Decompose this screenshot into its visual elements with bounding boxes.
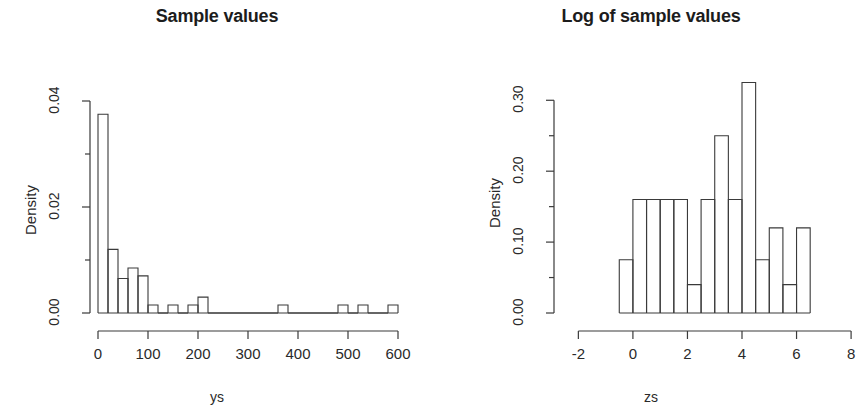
x-tick-label: 300 [226,345,270,362]
x-tick-label: -2 [556,345,600,362]
plot-panel-log-sample-values: Log of sample values Density zs 0.000.10… [434,0,868,413]
x-tick-label: 8 [829,345,868,362]
histogram-bar [198,297,208,313]
y-axis-left [82,101,90,313]
x-axis-right [578,331,851,339]
histogram-bar [687,285,701,313]
histogram-bar [358,305,368,313]
y-tick-label: 0.04 [46,78,62,122]
x-tick-label: 500 [326,345,370,362]
histogram-bar [715,136,729,313]
x-tick-label: 100 [126,345,170,362]
histogram-bar [701,200,715,313]
histogram-bar [188,305,198,313]
histogram-bar [769,228,783,313]
x-axis-left [98,331,398,339]
x-tick-label: 200 [176,345,220,362]
histogram-bar [108,249,118,313]
histogram-bar [168,305,178,313]
histogram-bar [647,200,661,313]
x-tick-label: 600 [376,345,420,362]
x-tick-label: 0 [611,345,655,362]
y-tick-label: 0.20 [510,148,526,192]
y-tick-label: 0.30 [510,77,526,121]
histogram-bars-left [98,114,398,313]
histogram-bar [98,114,108,313]
histogram-bar [138,276,148,313]
y-tick-label: 0.02 [46,184,62,228]
y-axis-right [546,100,554,313]
x-tick-label: 400 [276,345,320,362]
y-tick-label: 0.00 [510,290,526,334]
histogram-bar [128,268,138,313]
histogram-bar [674,200,688,313]
histogram-bar [619,260,633,313]
histogram-bar [118,279,128,313]
histogram-bar [756,260,770,313]
histogram-bar [633,200,647,313]
histogram-bar [338,305,348,313]
x-tick-label: 6 [775,345,819,362]
histogram-bars-right [619,83,810,313]
x-tick-label: 4 [720,345,764,362]
y-tick-label: 0.00 [46,290,62,334]
histogram-bar [742,83,756,313]
y-tick-label: 0.10 [510,219,526,263]
histogram-bar [148,305,158,313]
histogram-bar [728,200,742,313]
histogram-bar [783,285,797,313]
histogram-bar [660,200,674,313]
x-tick-label: 0 [76,345,120,362]
x-tick-label: 2 [665,345,709,362]
plot-panel-sample-values: Sample values Density ys 0.000.020.04 01… [0,0,434,413]
histogram-bar [278,305,288,313]
histogram-bar [797,228,811,313]
figure-canvas: Sample values Density ys 0.000.020.04 01… [0,0,868,413]
histogram-bar [388,305,398,313]
